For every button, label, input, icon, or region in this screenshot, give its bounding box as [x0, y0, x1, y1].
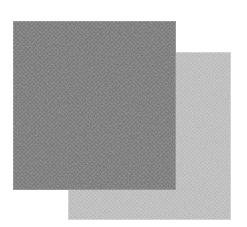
dark-square-edge	[13, 21, 176, 190]
dark-gray-square	[13, 21, 176, 190]
grain-texture-dark-icon	[13, 21, 176, 190]
image-canvas	[0, 0, 247, 227]
halftone-texture-dark-icon	[13, 21, 176, 190]
